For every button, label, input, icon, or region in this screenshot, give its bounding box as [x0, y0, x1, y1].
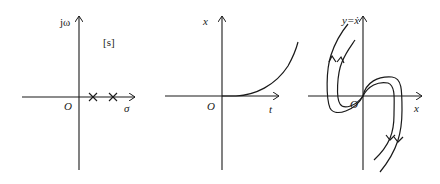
s-plane-panel: jω [s] O σ — [22, 16, 135, 170]
time-response-panel: x O t — [165, 15, 298, 170]
xdot-label: y=ẋ — [341, 14, 359, 26]
arrow-up-icon — [337, 57, 344, 63]
exponential-response-curve — [222, 42, 298, 96]
origin-label: O — [64, 100, 72, 112]
trajectory-outer-lower — [363, 77, 402, 172]
s-plane-label: [s] — [103, 36, 115, 48]
t-label: t — [269, 103, 273, 115]
figure-canvas: jω [s] O σ x O t y=ẋ O x — [0, 0, 440, 184]
phase-plane-panel: y=ẋ O x — [308, 14, 422, 172]
sigma-label: σ — [124, 102, 130, 114]
origin-label: O — [207, 100, 215, 112]
trajectory-inner-lower — [363, 83, 394, 160]
jomega-label: jω — [59, 16, 70, 28]
x-label: x — [202, 15, 208, 27]
trajectory-inner-upper — [338, 40, 363, 107]
x-label: x — [413, 102, 419, 114]
